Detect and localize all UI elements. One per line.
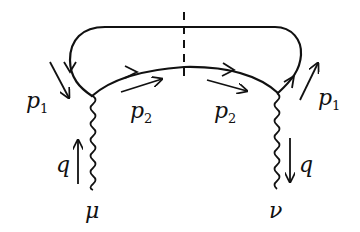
p1-left-arrow-icon: [50, 62, 69, 98]
label-p1-right: p1: [318, 85, 340, 113]
feynman-diagram: p1 p2 p2 p1 q q μ ν: [0, 0, 360, 232]
p2-right-arrow-icon: [207, 80, 247, 91]
label-q-right: q: [299, 152, 313, 177]
p2-left-arrow-icon: [121, 79, 162, 92]
photon-mu: [91, 96, 96, 190]
label-p2-left: p2: [130, 98, 152, 126]
label-mu: μ: [85, 198, 99, 223]
label-nu: ν: [269, 198, 282, 223]
label-p2-right: p2: [214, 98, 236, 126]
label-p1-left: p1: [26, 88, 48, 116]
p1-right-arrow-icon: [300, 63, 318, 100]
photon-nu: [275, 93, 280, 189]
label-q-left: q: [56, 152, 70, 177]
